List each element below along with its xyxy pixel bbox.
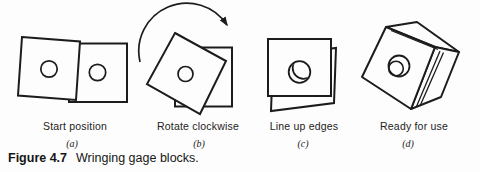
panel-label-c: Line up edges	[270, 120, 339, 132]
diagram-line-up-edges	[268, 39, 336, 111]
panel-label-b: Rotate clockwise	[157, 120, 239, 132]
panel-label-d: Ready for use	[380, 120, 448, 132]
diagram-rotate-clockwise	[139, 3, 232, 114]
panel-tag-c: (c)	[297, 138, 308, 149]
panel-tag-b: (b)	[193, 138, 205, 149]
block-hole	[41, 61, 57, 77]
panel-tag-d: (d)	[402, 138, 414, 149]
figure-caption: Figure 4.7Wringing gage blocks.	[8, 151, 199, 165]
block-hole	[89, 64, 105, 80]
block-hole	[178, 67, 193, 82]
panel-tag-a: (a)	[66, 138, 78, 149]
figure-caption-number: Figure 4.7	[8, 151, 67, 165]
figure-4-7: Start position Rotate clockwise Line up …	[0, 0, 480, 172]
panel-label-a: Start position	[43, 120, 107, 132]
block-hole	[289, 61, 311, 83]
diagram-start-position	[18, 37, 127, 102]
diagram-ready-for-use	[362, 22, 459, 109]
figure-caption-text: Wringing gage blocks.	[76, 151, 199, 165]
